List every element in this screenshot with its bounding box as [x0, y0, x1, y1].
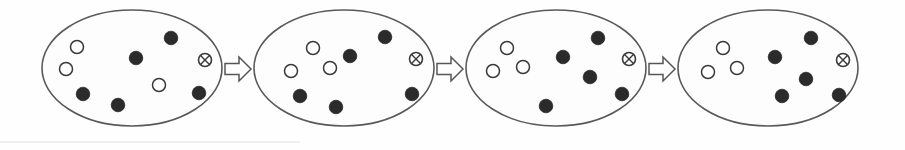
set-group-1[interactable]: [42, 10, 222, 126]
filled-dot-icon: [768, 50, 782, 64]
open-dot-icon: [324, 62, 337, 75]
filled-dot-icon: [405, 87, 419, 101]
filled-dot-icon: [111, 98, 125, 112]
crossed-circle-icon: [410, 53, 423, 66]
filled-dot-icon: [799, 72, 813, 86]
filled-dot-icon: [164, 31, 178, 45]
filled-dot-icon: [293, 89, 307, 103]
filled-dot-icon: [343, 49, 357, 63]
filled-dot-icon: [329, 100, 343, 114]
filled-dot-icon: [775, 89, 789, 103]
filled-dot-icon: [591, 31, 605, 45]
open-dot-icon: [285, 65, 298, 78]
set-ellipse-2[interactable]: [254, 10, 434, 126]
open-dot-icon: [731, 62, 744, 75]
open-dot-icon: [60, 63, 73, 76]
filled-dot-icon: [192, 86, 206, 100]
open-dot-icon: [71, 41, 84, 54]
filled-dot-icon: [129, 51, 143, 65]
filled-dot-icon: [615, 87, 629, 101]
crossed-circle-icon: [837, 54, 850, 67]
open-dot-icon: [307, 42, 320, 55]
open-dot-icon: [153, 79, 166, 92]
filled-dot-icon: [378, 30, 392, 44]
filled-dot-icon: [539, 99, 553, 113]
open-dot-icon: [501, 42, 514, 55]
open-dot-icon: [717, 42, 730, 55]
open-dot-icon: [487, 65, 500, 78]
crossed-circle-icon: [623, 53, 636, 66]
crossed-circle-icon: [199, 54, 212, 67]
set-group-2[interactable]: [254, 10, 434, 126]
filled-dot-icon: [583, 70, 597, 84]
open-dot-icon: [517, 61, 530, 74]
filled-dot-icon: [76, 87, 90, 101]
set-group-3[interactable]: [466, 10, 646, 126]
filled-dot-icon: [832, 88, 846, 102]
set-group-4[interactable]: [678, 10, 858, 126]
diagram-svg: [0, 0, 905, 150]
open-dot-icon: [702, 66, 715, 79]
filled-dot-icon: [804, 31, 818, 45]
figure-canvas: [0, 0, 905, 150]
filled-dot-icon: [556, 50, 570, 64]
